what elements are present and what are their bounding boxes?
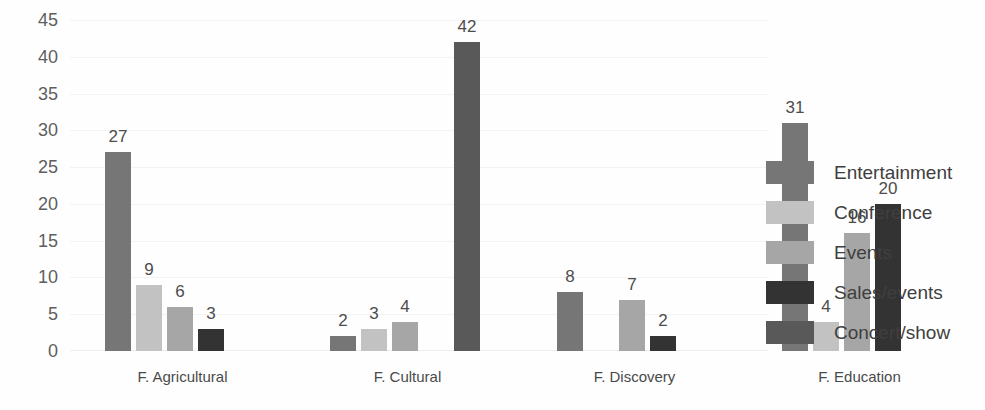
bar-group: 872F. Discovery [557, 20, 712, 351]
bar-value-label: 27 [109, 128, 128, 145]
bar-value-label: 4 [400, 298, 409, 315]
x-axis-category-label: F. Education [782, 368, 937, 385]
legend-item[interactable]: Events [766, 232, 952, 272]
bar-value-label: 9 [144, 261, 153, 278]
legend-item[interactable]: Concert/show [766, 312, 952, 352]
legend-item-label: Events [834, 243, 892, 262]
y-axis-tick-label: 45 [38, 11, 58, 29]
bar[interactable] [392, 322, 418, 351]
bar[interactable] [454, 42, 480, 351]
bar[interactable] [650, 336, 676, 351]
x-axis-category-label: F. Agricultural [105, 368, 260, 385]
y-axis-tick-label: 20 [38, 195, 58, 213]
bar-value-label: 2 [338, 312, 347, 329]
bar-slot: 7 [619, 20, 645, 351]
bar-slot: 3 [198, 20, 224, 351]
bar[interactable] [330, 336, 356, 351]
legend-swatch-icon [766, 241, 814, 264]
bar-value-label: 2 [658, 312, 667, 329]
bar-slot: 3 [361, 20, 387, 351]
bar[interactable] [105, 152, 131, 351]
bar[interactable] [167, 307, 193, 351]
bar-slot: 8 [557, 20, 583, 351]
legend-item[interactable]: Conference [766, 192, 952, 232]
legend: EntertainmentConferenceEventsSales/event… [766, 152, 952, 352]
bar-value-label: 8 [565, 268, 574, 285]
bar-value-label: 3 [369, 305, 378, 322]
y-axis-tick-label: 30 [38, 121, 58, 139]
legend-item[interactable]: Entertainment [766, 152, 952, 192]
y-axis-tick-label: 25 [38, 158, 58, 176]
legend-swatch-icon [766, 161, 814, 184]
bar-slot: 2 [650, 20, 676, 351]
legend-item-label: Entertainment [834, 163, 952, 182]
bar-value-label: 42 [458, 18, 477, 35]
bar-slot: 9 [136, 20, 162, 351]
bar-group: 23442F. Cultural [330, 20, 485, 351]
bar[interactable] [136, 285, 162, 351]
bar-value-label: 6 [175, 283, 184, 300]
y-axis-tick-label: 15 [38, 232, 58, 250]
bar-value-label: 3 [206, 305, 215, 322]
bar-groups: 27963F. Agricultural23442F. Cultural872F… [70, 20, 760, 351]
legend-item-label: Sales/events [834, 283, 943, 302]
bar-slot: 6 [167, 20, 193, 351]
y-axis-tick-label: 0 [48, 342, 58, 360]
bar-value-label: 31 [786, 99, 805, 116]
legend-item-label: Concert/show [834, 323, 950, 342]
legend-swatch-icon [766, 281, 814, 304]
legend-item[interactable]: Sales/events [766, 272, 952, 312]
bar-slot [423, 20, 449, 351]
legend-item-label: Conference [834, 203, 932, 222]
bar-slot: 4 [392, 20, 418, 351]
y-axis-tick-label: 35 [38, 85, 58, 103]
x-axis-category-label: F. Discovery [557, 368, 712, 385]
bar-group: 27963F. Agricultural [105, 20, 260, 351]
x-axis-category-label: F. Cultural [330, 368, 485, 385]
bar[interactable] [198, 329, 224, 351]
y-axis-tick-label: 5 [48, 305, 58, 323]
plot-area: 454035302520151050 27963F. Agricultural2… [70, 20, 760, 351]
bar-value-label: 7 [627, 276, 636, 293]
bar-chart: 454035302520151050 27963F. Agricultural2… [0, 0, 985, 410]
bar[interactable] [557, 292, 583, 351]
legend-swatch-icon [766, 201, 814, 224]
y-axis-tick-label: 10 [38, 268, 58, 286]
bar-slot: 42 [454, 20, 480, 351]
bar-slot: 27 [105, 20, 131, 351]
bar-slot [229, 20, 255, 351]
bar[interactable] [619, 300, 645, 351]
bar[interactable] [361, 329, 387, 351]
y-axis-tick-label: 40 [38, 48, 58, 66]
legend-swatch-icon [766, 321, 814, 344]
bar-slot [681, 20, 707, 351]
bar-slot: 2 [330, 20, 356, 351]
bar-slot [588, 20, 614, 351]
